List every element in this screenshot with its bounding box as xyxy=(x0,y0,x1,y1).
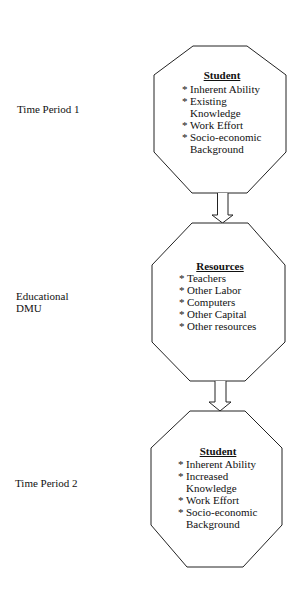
list-item: *Socio-economic xyxy=(178,506,257,518)
list-item: Knowledge xyxy=(178,482,257,494)
box-title-student-1: Student xyxy=(180,69,264,81)
box-list-student-2: *Inherent Ability *Increased Knowledge *… xyxy=(178,458,257,530)
box-list-resources: *Teachers *Other Labor *Computers *Other… xyxy=(179,272,256,332)
list-item: *Increased xyxy=(178,470,257,482)
label-educational-dmu: Educational DMU xyxy=(16,290,69,314)
down-arrow-icon xyxy=(212,193,233,223)
list-item: Background xyxy=(182,143,261,155)
list-item: *Other resources xyxy=(179,320,256,332)
box-title-student-2: Student xyxy=(176,445,260,457)
list-item: *Work Effort xyxy=(182,119,261,131)
list-item: *Work Effort xyxy=(178,494,257,506)
box-list-student-1: *Inherent Ability *Existing Knowledge *W… xyxy=(182,83,261,155)
box-title-resources: Resources xyxy=(178,260,262,272)
list-item: Background xyxy=(178,518,257,530)
list-item: *Socio-economic xyxy=(182,131,261,143)
down-arrow-icon xyxy=(209,381,231,411)
list-item: *Computers xyxy=(179,296,256,308)
list-item: *Existing xyxy=(182,95,261,107)
label-educational-line1: Educational xyxy=(16,290,69,302)
label-educational-line2: DMU xyxy=(16,302,69,314)
list-item: *Other Capital xyxy=(179,308,256,320)
list-item: *Other Labor xyxy=(179,284,256,296)
list-item: *Inherent Ability xyxy=(178,458,257,470)
list-item: Knowledge xyxy=(182,107,261,119)
label-time-period-2: Time Period 2 xyxy=(15,477,78,489)
label-time-period-1: Time Period 1 xyxy=(17,103,80,115)
list-item: *Inherent Ability xyxy=(182,83,261,95)
flow-diagram: Time Period 1 Educational DMU Time Perio… xyxy=(0,0,299,592)
list-item: *Teachers xyxy=(179,272,256,284)
